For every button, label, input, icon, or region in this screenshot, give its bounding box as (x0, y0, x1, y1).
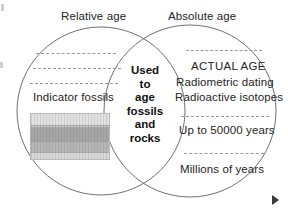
right-dashed-separator-2 (181, 116, 269, 117)
edge-artifact-mid (0, 62, 3, 68)
left-dashed-separator-2 (33, 68, 121, 69)
venn-diagram-figure: Relative age Absolute age Indicator foss… (0, 0, 288, 214)
left-dashed-separator-3 (30, 83, 118, 84)
venn-left-title: Relative age (61, 10, 126, 22)
strata-band-1 (31, 114, 109, 125)
intersection-word-3: age (117, 91, 173, 105)
intersection-word-6: rocks (117, 132, 173, 146)
right-dashed-separator-1 (186, 50, 262, 51)
left-item-indicator-fossils: Indicator fossils (33, 91, 114, 103)
intersection-word-2: to (117, 78, 173, 92)
rock-strata-block (30, 113, 110, 160)
play-marker-icon[interactable] (272, 195, 279, 205)
right-item-radiometric-dating: Radiometric dating (176, 76, 274, 88)
venn-intersection-label: Used to age fossils and rocks (117, 64, 173, 146)
right-item-radioactive-isotopes: Radioactive isotopes (175, 91, 283, 103)
right-item-up-to-50000-years: Up to 50000 years (179, 124, 275, 136)
intersection-word-1: Used (117, 64, 173, 78)
strata-band-3 (31, 128, 109, 141)
strata-band-5 (31, 152, 109, 160)
edge-artifact-top (1, 4, 4, 11)
intersection-word-4: fossils (117, 105, 173, 119)
right-item-millions-of-years: Millions of years (180, 163, 264, 175)
right-dashed-separator-3 (184, 153, 264, 154)
venn-right-title: Absolute age (168, 10, 236, 22)
strata-band-4 (31, 141, 109, 152)
right-item-actual-age: ACTUAL AGE (191, 60, 266, 72)
left-dashed-separator-1 (36, 53, 116, 54)
intersection-word-5: and (117, 118, 173, 132)
